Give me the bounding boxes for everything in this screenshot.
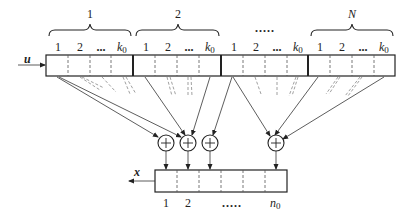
cell-label-k0: k0: [117, 40, 127, 55]
adder-1: [158, 135, 174, 151]
cell-label-k0: k0: [205, 40, 215, 55]
brace-group-2: [136, 24, 219, 36]
cell-labels-group-1: 1 2 ... k0: [55, 40, 127, 55]
group-label-N: N: [347, 7, 357, 21]
cell-label: 1: [317, 40, 323, 54]
cell-label: 2: [253, 40, 259, 54]
group-label-ellipsis: .....: [255, 21, 275, 35]
brace-group-1: [49, 24, 131, 36]
output-cell-label-2: 2: [185, 196, 191, 210]
cell-label: 2: [165, 40, 171, 54]
adder-n0: [268, 135, 284, 151]
cell-label-ellipsis: ...: [97, 40, 106, 54]
output-cell-label-ellipsis: .....: [222, 196, 242, 210]
cell-label: 1: [231, 40, 237, 54]
convolutional-encoder-diagram: 1 2 ..... N 1 2 ... k0 1 2 ... k0 1 2 ..…: [0, 0, 413, 218]
cell-label-ellipsis: ...: [185, 40, 194, 54]
input-label-u: u: [24, 52, 31, 66]
adder-output-arrows: [166, 151, 276, 169]
output-label-x: x: [133, 165, 140, 179]
group-braces: [49, 24, 393, 36]
group-label-1: 1: [87, 7, 93, 21]
cell-label-ellipsis: ...: [359, 40, 368, 54]
cell-label: 2: [339, 40, 345, 54]
cell-labels-group-2: 1 2 ... k0: [143, 40, 215, 55]
output-cell-label-1: 1: [163, 196, 169, 210]
cell-label: 1: [143, 40, 149, 54]
input-shift-register: [46, 55, 395, 76]
modulo-2-adders: [158, 135, 284, 151]
adder-2: [180, 135, 196, 151]
cell-labels-group-N: 1 2 ... k0: [317, 40, 389, 55]
cell-label: 2: [77, 40, 83, 54]
cell-label-ellipsis: ...: [273, 40, 282, 54]
brace-group-N: [311, 24, 393, 36]
adder-3: [202, 135, 218, 151]
cell-labels-group-3: 1 2 ... k0: [231, 40, 303, 55]
group-label-2: 2: [175, 7, 181, 21]
output-register: [155, 170, 287, 192]
cell-label: 1: [55, 40, 61, 54]
cell-label-k0: k0: [379, 40, 389, 55]
output-cell-label-n0: n0: [270, 196, 281, 211]
tap-connections: [57, 77, 384, 139]
dashed-connections: [80, 77, 362, 96]
cell-label-k0: k0: [293, 40, 303, 55]
